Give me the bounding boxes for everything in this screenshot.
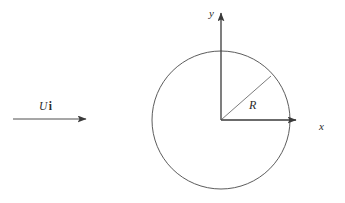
radius-label: R (249, 99, 256, 111)
y-axis-label: y (209, 8, 214, 19)
radius-line (222, 76, 272, 120)
velocity-magnitude-symbol: U (39, 100, 47, 112)
x-axis-label: x (319, 121, 324, 132)
velocity-unit-vector-symbol: i (49, 100, 52, 112)
flow-velocity-label: Ui (39, 101, 52, 113)
figure-container: y x R Ui (0, 0, 345, 203)
